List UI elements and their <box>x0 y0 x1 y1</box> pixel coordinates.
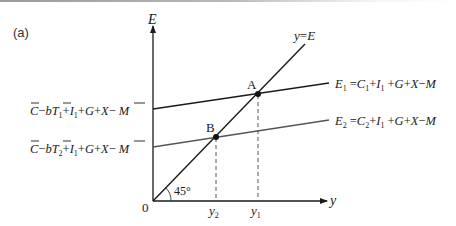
x-axis-label: y <box>328 193 337 208</box>
angle-arc <box>166 188 171 201</box>
point-b-label: B <box>206 120 215 135</box>
diagonal-line <box>153 44 305 201</box>
diagonal-label: y=E <box>292 28 315 43</box>
e2-label: E2 =C2+I1 +G+X−M <box>334 114 436 130</box>
income-expenditure-diagram: (a) E y 0 45° y=E E1 =C1+I1 +G+X−M E2 =C… <box>0 0 456 226</box>
y1-tick-label: y1 <box>249 203 261 220</box>
panel-label: (a) <box>13 25 29 40</box>
e1-intercept-label: C−bT1+I1+G+X− M <box>30 103 145 120</box>
point-a-label: A <box>247 77 257 92</box>
y2-tick-label: y2 <box>207 203 219 220</box>
e1-label: E1 =C1+I1 +G+X−M <box>334 77 436 93</box>
origin-label: 0 <box>142 200 149 215</box>
e1-line <box>153 83 329 109</box>
angle-label: 45° <box>174 184 191 198</box>
y-axis-label: E <box>147 12 157 27</box>
svg-text:C−bT2+I1+G+X− M: C−bT2+I1+G+X− M <box>30 142 130 158</box>
e2-line <box>153 120 329 147</box>
svg-text:C−bT1+I1+G+X− M: C−bT1+I1+G+X− M <box>30 104 130 120</box>
e2-intercept-label: C−bT2+I1+G+X− M <box>30 141 145 158</box>
